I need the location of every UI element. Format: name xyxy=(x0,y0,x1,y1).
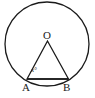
circle-outline xyxy=(5,2,89,86)
geometry-canvas xyxy=(0,0,95,98)
label-point-b: B xyxy=(63,82,70,93)
label-point-a: A xyxy=(22,82,30,93)
label-point-o: O xyxy=(43,30,51,41)
label-angle-x: x° xyxy=(31,67,37,74)
geometry-figure: O A B x° xyxy=(0,0,95,98)
